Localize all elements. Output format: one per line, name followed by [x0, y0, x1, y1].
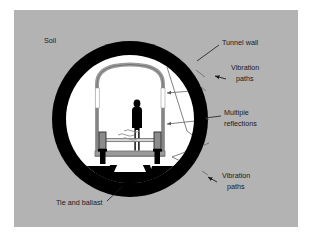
label-multiple-reflections-line2: reflections: [224, 119, 257, 128]
tie-left: [100, 151, 106, 164]
tunnel-vibration-diagram: Soil Tunnel wall Vibration paths Multipl…: [0, 0, 312, 237]
label-soil: Soil: [44, 36, 56, 45]
label-vibration-paths-bottom-line1: Vibration: [222, 171, 250, 180]
label-tunnel-wall: Tunnel wall: [222, 38, 258, 47]
wheel-right: [154, 132, 161, 149]
axle: [104, 139, 156, 142]
tie-right: [155, 151, 161, 164]
label-vibration-paths-top-line1: Vibration: [231, 63, 259, 72]
label-multiple-reflections-line1: Multiple: [224, 108, 249, 117]
ballast-notch: [114, 163, 146, 172]
label-vibration-paths-top-line2: paths: [236, 74, 254, 83]
label-vibration-paths-bottom-line2: paths: [227, 182, 245, 191]
lining-window-right: [161, 88, 165, 108]
wheel-left: [99, 132, 106, 149]
lining-window-left: [95, 88, 99, 108]
label-tie-and-ballast: Tie and ballast: [56, 198, 102, 207]
figure-root: Soil Tunnel wall Vibration paths Multipl…: [0, 0, 312, 237]
